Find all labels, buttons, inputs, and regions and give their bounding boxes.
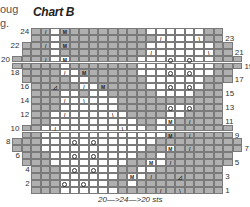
chart-cell	[41, 83, 51, 90]
chart-cell	[41, 145, 51, 152]
chart-cell	[204, 76, 214, 83]
chart-cell	[98, 76, 108, 83]
row-number-label: 4	[25, 165, 29, 174]
chart-cell	[204, 166, 214, 173]
chart-cell	[98, 138, 108, 145]
chart-cell	[146, 132, 156, 139]
chart-cell	[31, 76, 41, 83]
chart-cell	[31, 145, 41, 152]
chart-cell	[118, 63, 128, 70]
chart-cell	[156, 69, 166, 76]
chart-cell	[175, 180, 185, 187]
yarn-over-icon	[72, 140, 77, 145]
chart-cell	[89, 35, 99, 42]
chart-cell: /	[156, 187, 166, 194]
chart-cell	[31, 125, 41, 132]
yarn-over-icon	[187, 85, 192, 90]
chart-cell	[214, 76, 224, 83]
chart-cell	[185, 159, 195, 166]
chart-cell	[79, 111, 89, 118]
chart-cell	[31, 49, 41, 56]
chart-cell	[166, 28, 176, 35]
chart-cell	[194, 132, 204, 139]
chart-cell	[194, 159, 204, 166]
chart-cell: /	[166, 159, 176, 166]
chart-cell	[70, 152, 80, 159]
chart-cell	[79, 132, 89, 139]
chart-cell	[214, 180, 224, 187]
chart-cell	[146, 97, 156, 104]
chart-cell	[127, 138, 137, 145]
chart-cell	[194, 49, 204, 56]
chart-cell	[79, 63, 89, 70]
chart-cell	[166, 173, 176, 180]
chart-cell	[214, 97, 224, 104]
chart-cell	[214, 152, 224, 159]
chart-cell	[41, 180, 51, 187]
chart-cell	[31, 118, 41, 125]
chart-cell	[175, 132, 185, 139]
chart-cell	[79, 49, 89, 56]
chart-cell	[41, 35, 51, 42]
chart-cell	[127, 49, 137, 56]
chart-cell	[185, 104, 195, 111]
chart-cell	[137, 49, 147, 56]
chart-cell	[156, 56, 166, 63]
chart-cell	[137, 42, 147, 49]
chart-cell	[127, 83, 137, 90]
chart-cell	[194, 152, 204, 159]
chart-cell	[185, 42, 195, 49]
row-number-label: 24	[20, 27, 29, 36]
chart-cell	[137, 111, 147, 118]
chart-cell	[185, 152, 195, 159]
chart-cell	[118, 118, 128, 125]
chart-cell	[31, 42, 41, 49]
chart-cell	[156, 104, 166, 111]
chart-cell	[137, 166, 147, 173]
row-number-label: 20	[1, 55, 10, 64]
chart-cell	[185, 138, 195, 145]
chart-cell	[31, 138, 41, 145]
row-number-label: 19	[244, 62, 250, 71]
yarn-over-icon	[81, 182, 86, 187]
row-number-label: 6	[16, 151, 20, 160]
chart-cell	[127, 104, 137, 111]
chart-cell	[31, 56, 41, 63]
chart-cell	[185, 28, 195, 35]
chart-cell	[50, 145, 60, 152]
yarn-over-icon	[91, 154, 96, 159]
chart-cell	[137, 118, 147, 125]
row-number-label: 18	[11, 68, 20, 77]
chart-cell	[156, 63, 166, 70]
chart-cell	[108, 69, 118, 76]
chart-cell	[98, 166, 108, 173]
chart-cell	[146, 28, 156, 35]
chart-cell	[31, 63, 41, 70]
chart-cell	[137, 138, 147, 145]
chart-cell	[214, 173, 224, 180]
chart-cell	[156, 125, 166, 132]
chart-cell	[146, 69, 156, 76]
chart-cell: /	[146, 49, 156, 56]
chart-cell	[223, 132, 233, 139]
chart-cell	[70, 49, 80, 56]
chart-cell	[156, 83, 166, 90]
chart-cell	[185, 35, 195, 42]
chart-cell: /	[50, 125, 60, 132]
text-fragment: oug	[0, 3, 18, 15]
chart-cell	[79, 90, 89, 97]
chart-cell	[156, 152, 166, 159]
chart-cell	[89, 104, 99, 111]
chart-cell	[194, 138, 204, 145]
chart-cell	[98, 49, 108, 56]
chart-cell	[185, 49, 195, 56]
chart-cell	[70, 180, 80, 187]
chart-cell	[146, 104, 156, 111]
chart-cell	[89, 42, 99, 49]
chart-cell	[156, 90, 166, 97]
chart-cell: \	[194, 35, 204, 42]
chart-cell	[22, 63, 32, 70]
chart-cell	[166, 35, 176, 42]
chart-cell	[214, 187, 224, 194]
chart-cell	[22, 42, 32, 49]
